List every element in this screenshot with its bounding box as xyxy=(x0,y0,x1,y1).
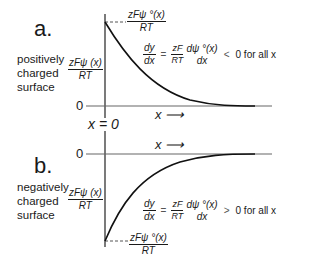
eq-b-relation: > xyxy=(224,205,230,216)
y-label-b-den: RT xyxy=(79,200,92,211)
eq-a-relation: < xyxy=(224,49,230,60)
potential-curve-b xyxy=(105,154,255,241)
peak-label-a-num: zFψ °(x) xyxy=(127,10,166,22)
zero-label-b: 0 xyxy=(76,147,83,160)
eq-b-lhs-num: dy xyxy=(143,199,156,211)
equation-a: dydx = zFRT dψ °(x)dx < 0 for all x xyxy=(142,43,276,66)
eq-a-coef-den: RT xyxy=(171,55,183,65)
eq-a-equals: = xyxy=(161,49,167,60)
y-axis-label-b: zFψ (x) RT xyxy=(68,188,103,211)
x-axis-label-a: x ⟶ xyxy=(155,108,184,121)
y-label-a-den: RT xyxy=(79,70,92,81)
eq-a-coef-num: zF xyxy=(171,44,183,55)
panel-label-a: a. xyxy=(34,18,52,40)
eq-b-lhs-den: dx xyxy=(144,211,155,222)
panel-label-b: b. xyxy=(34,155,52,177)
zero-label-a: 0 xyxy=(76,99,83,112)
y-label-b-num: zFψ (x) xyxy=(68,188,103,200)
eq-a-lhs-den: dx xyxy=(144,55,155,66)
eq-b-deriv-den: dx xyxy=(197,211,208,222)
peak-label-a: zFψ °(x) RT xyxy=(127,10,166,33)
trough-label-b-den: RT xyxy=(142,245,155,256)
eq-a-rhs: 0 for all x xyxy=(236,49,277,60)
y-label-a-num: zFψ (x) xyxy=(68,58,103,70)
peak-label-a-den: RT xyxy=(140,22,153,33)
eq-a-lhs-num: dy xyxy=(143,43,156,55)
origin-label: x = 0 xyxy=(88,117,119,131)
y-axis-label-a: zFψ (x) RT xyxy=(68,58,103,81)
eq-b-rhs: 0 for all x xyxy=(236,205,277,216)
eq-b-deriv-num: dψ °(x) xyxy=(185,200,218,211)
eq-b-equals: = xyxy=(161,205,167,216)
eq-b-coef-num: zF xyxy=(171,200,183,211)
eq-a-deriv-num: dψ °(x) xyxy=(185,44,218,55)
eq-b-coef-den: RT xyxy=(171,211,183,221)
trough-label-b: zFψ °(x) RT xyxy=(129,233,168,256)
trough-label-b-num: zFψ °(x) xyxy=(129,233,168,245)
x-axis-label-b: x ⟶ xyxy=(155,138,184,151)
eq-a-deriv-den: dx xyxy=(197,55,208,66)
equation-b: dydx = zFRT dψ °(x)dx > 0 for all x xyxy=(142,199,276,222)
